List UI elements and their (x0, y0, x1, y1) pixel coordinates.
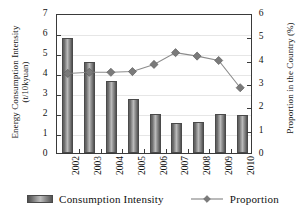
legend-item-consumption-intensity: Consumption Intensity (27, 193, 164, 205)
y-axis-right-tickmark (247, 108, 251, 109)
y-axis-left-tick-label: 4 (38, 69, 52, 79)
legend-item-proportion: Proportion (190, 190, 279, 208)
x-axis-tick-label: 2005 (137, 156, 147, 175)
y-axis-left-tick-label: 0 (38, 149, 52, 159)
chart-legend: Consumption Intensity Proportion (0, 190, 306, 208)
y-axis-left-tick-label: 1 (38, 129, 52, 139)
plot-area: 2002: 3.47%2003: 3.52%2004: 3.52%2005: 3… (56, 14, 252, 154)
y-axis-right-tick-label: 2 (254, 103, 268, 113)
data-point-marker: 2008: 4.22% (193, 52, 201, 60)
x-axis-tick-label: 2004 (115, 156, 125, 175)
y-axis-left-tick-label: 6 (38, 29, 52, 39)
bar-swatch-icon (27, 195, 53, 203)
x-axis-tick-label: 2009 (224, 156, 234, 175)
x-axis-tick-label: 2006 (159, 156, 169, 175)
y-axis-left-title-line2: (t/10kyuan) (20, 7, 30, 157)
data-point-marker: 2006: 3.86% (150, 60, 158, 68)
x-axis-tickmark (166, 149, 167, 153)
y-axis-right-tick-label: 6 (254, 9, 268, 19)
data-point-marker: 2004: 3.52% (107, 68, 115, 76)
y-axis-left-ticks: 01234567 (38, 14, 52, 154)
y-axis-right-tick-label: 1 (254, 126, 268, 136)
x-axis-tick-labels: 200220032004200520062007200820092010 (56, 156, 252, 186)
x-axis-tick-label: 2002 (71, 156, 81, 175)
chart-figure: Energy Consumption Intensity (t/10kyuan)… (0, 0, 306, 214)
y-axis-left-tickmark (57, 115, 61, 116)
x-axis-tickmark (101, 149, 102, 153)
y-axis-left-tickmark (57, 75, 61, 76)
y-axis-left-tickmark (57, 95, 61, 96)
x-axis-tickmark (209, 149, 210, 153)
x-axis-tick-label: 2008 (202, 156, 212, 175)
y-axis-right-ticks: 0123456 (254, 14, 268, 154)
x-axis-tick-label: 2003 (93, 156, 103, 175)
y-axis-left-tickmark (57, 55, 61, 56)
y-axis-right-tickmark (247, 38, 251, 39)
y-axis-left-title-line1: Energy Consumption Intensity (10, 25, 20, 138)
y-axis-right-tick-label: 3 (254, 79, 268, 89)
y-axis-left-tick-label: 7 (38, 9, 52, 19)
y-axis-right-tickmark (247, 62, 251, 63)
y-axis-left-tick-label: 3 (38, 89, 52, 99)
y-axis-right-tick-label: 0 (254, 149, 268, 159)
line-series-proportion: 2002: 3.47%2003: 3.52%2004: 3.52%2005: 3… (57, 15, 251, 154)
y-axis-right-tickmark (247, 85, 251, 86)
proportion-line (68, 53, 240, 88)
x-axis-tick-label: 2007 (180, 156, 190, 175)
y-axis-left-tickmark (57, 35, 61, 36)
data-point-marker: 2002: 3.47% (64, 69, 72, 77)
y-axis-left-tick-label: 2 (38, 109, 52, 119)
x-axis-tickmark (79, 149, 80, 153)
x-axis-tickmark (144, 149, 145, 153)
y-axis-left-tickmark (57, 135, 61, 136)
legend-label-proportion: Proportion (230, 193, 279, 205)
y-axis-right-title: Proportion in the Country (%) (285, 3, 295, 153)
x-axis-tickmark (231, 149, 232, 153)
y-axis-right-tickmark (247, 132, 251, 133)
y-axis-right-tick-label: 4 (254, 56, 268, 66)
data-point-marker: 2005: 3.55% (128, 68, 136, 76)
data-point-marker: 2007: 4.37% (171, 49, 179, 57)
y-axis-left-tick-label: 5 (38, 49, 52, 59)
x-axis-tickmark (122, 149, 123, 153)
y-axis-left-title: Energy Consumption Intensity (t/10kyuan) (10, 7, 30, 157)
data-point-marker: 2003: 3.52% (85, 68, 93, 76)
y-axis-right-tick-label: 5 (254, 33, 268, 43)
x-axis-tickmark (188, 149, 189, 153)
legend-label-consumption-intensity: Consumption Intensity (59, 193, 164, 205)
line-diamond-icon (190, 190, 224, 208)
x-axis-tick-label: 2010 (246, 156, 256, 175)
